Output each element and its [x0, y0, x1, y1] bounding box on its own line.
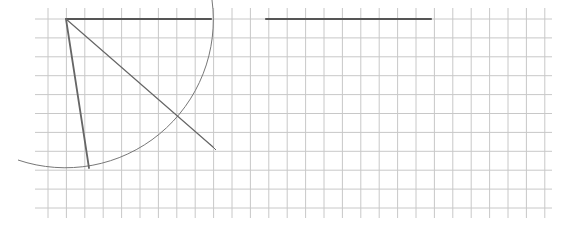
construction-shapes — [18, 0, 431, 168]
steep-segment — [66, 19, 89, 168]
geometry-figure — [0, 0, 563, 229]
grid-paper — [35, 8, 552, 218]
endpoint-tick — [210, 144, 216, 150]
compass-arc — [18, 0, 213, 168]
